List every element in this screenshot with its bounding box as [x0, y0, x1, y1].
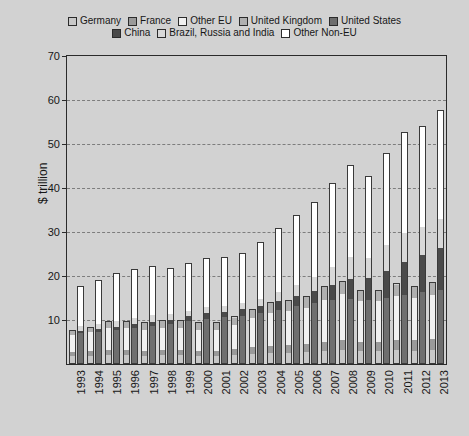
bar-segment: [258, 299, 263, 306]
year-group: [410, 56, 428, 364]
bar-segment: [160, 328, 165, 350]
bar-segment: [150, 326, 155, 363]
bar-segment: [250, 310, 255, 318]
legend-item-united-states[interactable]: United States: [329, 16, 401, 26]
legend-item-china[interactable]: China: [112, 28, 150, 38]
bar-segment: [106, 328, 111, 350]
bar-segment: [340, 294, 345, 340]
year-group: [247, 56, 265, 364]
x-axis-tick: 2000: [193, 368, 211, 428]
legend-swatch-icon: [239, 17, 248, 26]
bar-segment: [222, 317, 227, 363]
stacked-bar-eu: [159, 320, 166, 364]
bar-segment: [412, 351, 417, 363]
stacked-bar-non-eu: [437, 110, 444, 364]
year-group: [211, 56, 229, 364]
legend-swatch-icon: [128, 17, 137, 26]
bar-segment: [150, 315, 155, 322]
legend-item-brazil-russia-and-india[interactable]: Brazil, Russia and India: [157, 28, 274, 38]
y-tick-label: 50: [28, 139, 60, 150]
stacked-bar-non-eu: [77, 286, 84, 364]
bar-segment: [376, 351, 381, 363]
bar-segment: [376, 342, 381, 351]
stacked-bar-non-eu: [275, 228, 282, 364]
bar-segment: [240, 316, 245, 363]
bar-segment: [178, 355, 183, 363]
x-axis-tick: 2008: [338, 368, 356, 428]
legend-swatch-icon: [68, 17, 77, 26]
plot-area: $ trillion 10203040506070: [66, 55, 447, 365]
x-axis-tick: 2001: [211, 368, 229, 428]
bar-segment: [340, 340, 345, 350]
bar-segment: [196, 330, 201, 351]
legend-item-other-eu[interactable]: Other EU: [178, 16, 232, 26]
bar-segment: [420, 292, 425, 363]
year-group: [139, 56, 157, 364]
stacked-bar-non-eu: [257, 242, 264, 364]
x-axis-tick: 2012: [411, 368, 429, 428]
bar-segment: [286, 301, 291, 311]
x-axis-tick: 1997: [139, 368, 157, 428]
y-tick-label: 30: [28, 227, 60, 238]
bar-segment: [124, 355, 129, 363]
bar-segment: [250, 347, 255, 354]
bar-segment: [294, 306, 299, 363]
year-group: [67, 56, 85, 364]
stacked-bar-eu: [303, 296, 310, 364]
legend-swatch-icon: [178, 17, 187, 26]
stacked-bar-eu: [285, 300, 292, 364]
legend-item-united-kingdom[interactable]: United Kingdom: [239, 16, 322, 26]
stacked-bar-non-eu: [221, 257, 228, 364]
bar-segment: [70, 335, 75, 352]
bar-segment: [232, 355, 237, 363]
bar-segment: [304, 352, 309, 363]
stacked-bar-eu: [87, 327, 94, 364]
bar-segment: [312, 277, 317, 291]
bar-segment: [304, 308, 309, 344]
year-group: [284, 56, 302, 364]
bar-segment: [204, 259, 209, 307]
stacked-bar-non-eu: [329, 183, 336, 364]
stacked-bar-non-eu: [293, 215, 300, 364]
bar-segment: [132, 270, 137, 318]
legend-item-other-non-eu[interactable]: Other Non-EU: [281, 28, 356, 38]
bar-segment: [88, 356, 93, 363]
bar-segment: [322, 342, 327, 351]
bar-segment: [160, 321, 165, 328]
legend-item-label: China: [124, 28, 150, 38]
bar-segment: [376, 291, 381, 302]
legend-swatch-icon: [112, 29, 121, 38]
stacked-bar-non-eu: [401, 132, 408, 364]
bar-segment: [114, 330, 119, 363]
bar-segment: [258, 243, 263, 299]
x-axis-tick: 2004: [266, 368, 284, 428]
bar-segment: [286, 345, 291, 353]
stacked-bar-non-eu: [311, 202, 318, 364]
legend-item-germany[interactable]: Germany: [68, 16, 121, 26]
bar-series-container: [67, 56, 446, 364]
legend-item-france[interactable]: France: [128, 16, 171, 26]
bar-segment: [348, 299, 353, 363]
x-axis-tick: 2013: [429, 368, 447, 428]
bar-segment: [430, 339, 435, 350]
stacked-bar-non-eu: [365, 176, 372, 364]
year-group: [302, 56, 320, 364]
bar-segment: [430, 283, 435, 295]
bar-segment: [304, 344, 309, 352]
bar-segment: [258, 306, 263, 313]
bar-segment: [250, 354, 255, 363]
bar-segment: [420, 127, 425, 227]
stacked-bar-non-eu: [131, 269, 138, 364]
stacked-bar-eu: [195, 322, 202, 364]
stacked-bar-eu: [213, 322, 220, 364]
bar-segment: [402, 133, 407, 234]
bar-segment: [330, 285, 335, 300]
bar-segment: [214, 323, 219, 330]
y-tick-label: 10: [28, 315, 60, 326]
bar-segment: [430, 295, 435, 339]
chart-legend: GermanyFranceOther EUUnited KingdomUnite…: [0, 16, 469, 38]
bar-segment: [384, 245, 389, 271]
y-tick-label: 70: [28, 51, 60, 62]
stacked-bar-eu: [69, 330, 76, 364]
y-tick-label: 20: [28, 271, 60, 282]
